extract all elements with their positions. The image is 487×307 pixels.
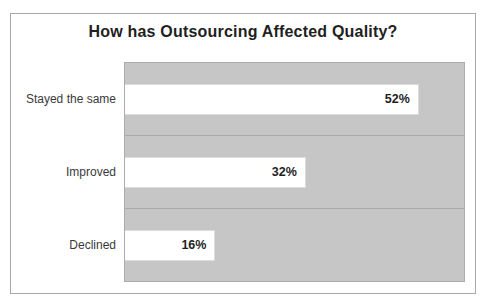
value-label-declined: 16% xyxy=(181,238,214,252)
category-label-declined: Declined xyxy=(11,209,116,282)
chart-frame: How has Outsourcing Affected Quality? St… xyxy=(10,13,476,294)
value-label-improved: 32% xyxy=(272,165,305,179)
bar-slot-declined: 16% xyxy=(125,208,464,281)
plot-area: 52% 32% 16% xyxy=(124,62,465,282)
page-background: How has Outsourcing Affected Quality? St… xyxy=(0,0,487,307)
bar-stayed-the-same: 52% xyxy=(125,84,419,115)
category-label-improved: Improved xyxy=(11,135,116,208)
category-label-stayed-the-same: Stayed the same xyxy=(11,62,116,135)
category-axis: Stayed the same Improved Declined xyxy=(11,62,116,282)
bar-improved: 32% xyxy=(125,157,306,188)
chart-body: Stayed the same Improved Declined 52% 32… xyxy=(11,62,465,282)
chart-title: How has Outsourcing Affected Quality? xyxy=(11,23,475,41)
bar-declined: 16% xyxy=(125,230,215,261)
bar-slot-improved: 32% xyxy=(125,135,464,208)
value-label-stayed-the-same: 52% xyxy=(385,92,418,106)
bar-slot-stayed-the-same: 52% xyxy=(125,63,464,135)
